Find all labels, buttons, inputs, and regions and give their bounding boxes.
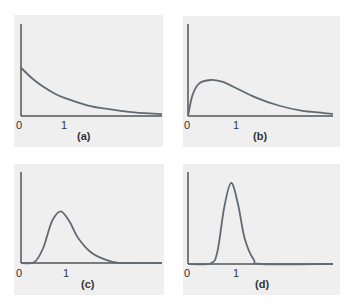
- chart-plot-d: [183, 164, 340, 295]
- chart-plot-c: [14, 164, 164, 295]
- x-tick-1: 1: [61, 120, 67, 131]
- panel-label-b: (b): [253, 131, 267, 142]
- x-tick-0: 0: [184, 268, 190, 279]
- chart-panel-b: 0 1 (b): [183, 16, 340, 147]
- chart-panel-d: 0 1 (d): [183, 164, 340, 295]
- panel-label-d: (d): [255, 279, 269, 290]
- x-tick-1: 1: [233, 120, 239, 131]
- density-curve: [21, 211, 162, 263]
- x-tick-1: 1: [233, 268, 239, 279]
- panel-label-a: (a): [77, 131, 90, 142]
- chart-panel-a: 0 1 (a): [14, 15, 163, 147]
- panel-label-c: (c): [81, 279, 94, 290]
- x-tick-0: 0: [184, 120, 190, 131]
- chart-plot-b: [183, 16, 340, 147]
- density-curve: [188, 183, 333, 264]
- chart-plot-a: [14, 15, 163, 147]
- density-curve: [188, 80, 333, 116]
- chart-panel-c: 0 1 (c): [14, 164, 164, 295]
- x-tick-0: 0: [16, 120, 22, 131]
- x-tick-1: 1: [63, 268, 69, 279]
- density-curve: [21, 68, 162, 115]
- x-tick-0: 0: [16, 268, 22, 279]
